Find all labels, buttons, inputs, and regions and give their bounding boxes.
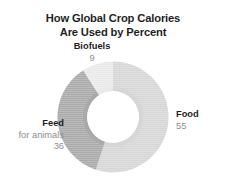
chart-title: How Global Crop Calories Are Used by Per… bbox=[0, 11, 226, 39]
donut-hole bbox=[87, 91, 139, 143]
slice-label-food-value: 55 bbox=[176, 121, 220, 133]
donut-chart-figure: How Global Crop Calories Are Used by Per… bbox=[0, 0, 226, 186]
slice-label-food-name: Food bbox=[176, 109, 220, 121]
chart-title-line-2: Are Used by Percent bbox=[0, 25, 226, 39]
slice-label-feed-value: 36 bbox=[4, 141, 64, 153]
slice-label-biofuels-value: 9 bbox=[50, 53, 134, 65]
slice-label-food: Food 55 bbox=[176, 109, 220, 132]
slice-label-biofuels-name: Biofuels bbox=[50, 41, 134, 53]
slice-label-feed-name: Feed bbox=[4, 118, 64, 130]
slice-label-biofuels: Biofuels 9 bbox=[50, 41, 134, 64]
slice-label-feed: Feed for animals 36 bbox=[4, 118, 64, 153]
donut-svg bbox=[57, 61, 169, 173]
chart-title-line-1: How Global Crop Calories bbox=[0, 11, 226, 25]
donut-chart-graphic bbox=[57, 61, 169, 173]
slice-label-feed-sublabel: for animals bbox=[4, 130, 64, 142]
